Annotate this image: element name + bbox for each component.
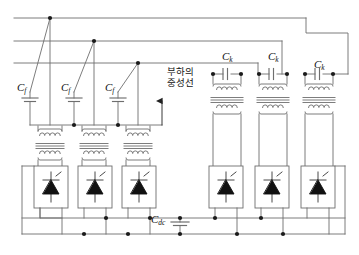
diagonal-phase1 xyxy=(30,18,50,92)
bus-to-filter-diagonals xyxy=(30,18,138,92)
label-cf-3: Cf xyxy=(105,82,114,94)
ac-bus-lines xyxy=(14,18,306,63)
label-cdc: Cdc xyxy=(151,214,165,226)
diagonal-phase2 xyxy=(74,41,94,92)
transformer-1 xyxy=(36,126,64,166)
filter-capacitor-2 xyxy=(66,92,82,125)
tx1-secondary-coil xyxy=(40,151,61,154)
circuit-diagram-figure: Cf Cf Cf Ck Ck Ck Cdc 부하의 중성선 xyxy=(0,0,359,255)
tx1-primary-leads xyxy=(38,126,62,131)
left-transformers xyxy=(36,126,152,166)
ac-bus-right-drops xyxy=(258,18,348,74)
neutral-line-note: 부하의 중성선 xyxy=(152,66,208,88)
transformer-2 xyxy=(80,126,108,166)
tx1-primary-coil xyxy=(40,133,61,136)
label-ck-1: Ck xyxy=(222,51,233,63)
dc-link-capacitor xyxy=(171,218,189,234)
right-transformers xyxy=(211,74,335,166)
filter-capacitor-3 xyxy=(110,92,126,125)
right-transformer-3 xyxy=(303,74,335,166)
label-cf-2: Cf xyxy=(61,82,70,94)
coupling-capacitor-1 xyxy=(213,69,241,80)
neutral-note-line-1: 부하의 xyxy=(152,66,208,77)
tx1-secondary-leads xyxy=(38,160,62,166)
filter-capacitors xyxy=(22,92,126,125)
bus1-drop xyxy=(306,18,348,74)
neutral-note-line-2: 중성선 xyxy=(152,77,208,88)
right-transformer-2 xyxy=(257,74,289,166)
label-ck-3: Ck xyxy=(314,59,325,71)
right-transformer-1 xyxy=(211,74,243,166)
coupling-capacitor-2 xyxy=(259,69,287,80)
label-ck-2: Ck xyxy=(268,51,279,63)
label-cf-1: Cf xyxy=(17,82,26,94)
converter-blocks xyxy=(34,166,335,208)
coupling-capacitor-network xyxy=(213,69,348,80)
transformer-3 xyxy=(124,126,152,166)
diagonal-phase3 xyxy=(118,63,138,92)
phase-feeders xyxy=(50,18,138,125)
filter-capacitor-1 xyxy=(22,92,38,125)
tx1-core xyxy=(36,144,64,149)
dc-side-wiring xyxy=(22,166,345,234)
schematic-canvas xyxy=(0,0,359,255)
